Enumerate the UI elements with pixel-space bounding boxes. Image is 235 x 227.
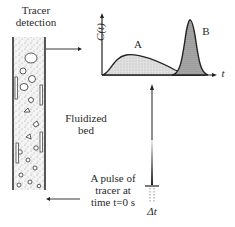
pulse-spike: [145, 136, 159, 202]
diagram-graphics: [0, 0, 235, 227]
pulse-injection-arrow: [46, 197, 80, 201]
pulse-to-chart-arrow: [150, 84, 154, 140]
detection-arrow: [46, 47, 82, 51]
fluidized-bed-column: [13, 37, 45, 227]
curve-b: [172, 20, 208, 75]
